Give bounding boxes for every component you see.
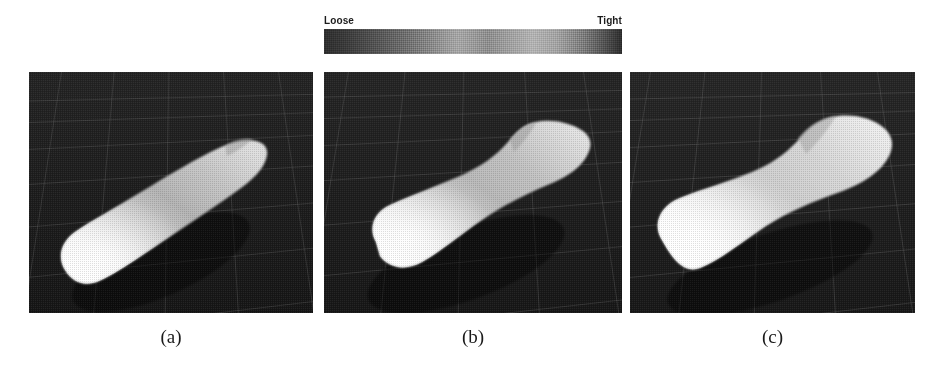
- colorbar-min-label: Loose: [324, 15, 354, 26]
- colorbar-max-label: Tight: [597, 15, 622, 26]
- figure-root: Loose Tight: [0, 0, 941, 367]
- colorbar-gradient: [324, 29, 622, 54]
- halftone-texture-b: [324, 72, 622, 313]
- figure-panel-b: [324, 72, 622, 313]
- colorbar-labels: Loose Tight: [324, 16, 622, 29]
- panel-caption-a: (a): [29, 326, 313, 348]
- halftone-texture-a: [29, 72, 313, 313]
- colorbar-legend: Loose Tight: [324, 16, 622, 56]
- shoe-last-render-b: [324, 72, 622, 313]
- shoe-last-render-a: [29, 72, 313, 313]
- figure-panel-a: [29, 72, 313, 313]
- panel-caption-b: (b): [324, 326, 622, 348]
- figure-panel-c: [630, 72, 915, 313]
- render-scene-a: [29, 72, 313, 313]
- halftone-texture-overlay: [324, 29, 622, 54]
- render-scene-c: [630, 72, 915, 313]
- halftone-texture-c: [630, 72, 915, 313]
- shoe-last-render-c: [630, 72, 915, 313]
- panel-caption-c: (c): [630, 326, 915, 348]
- render-scene-b: [324, 72, 622, 313]
